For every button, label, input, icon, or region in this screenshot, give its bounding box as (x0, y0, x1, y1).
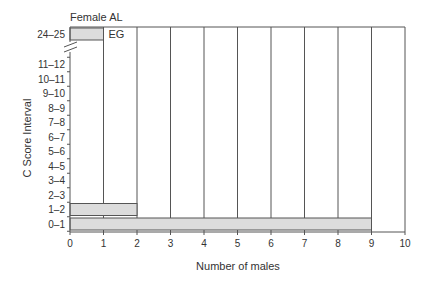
y-tick-label: 4–5 (48, 161, 65, 172)
chart-title: Female AL (70, 11, 123, 23)
y-tick-label: 24–25 (37, 29, 65, 40)
bar (70, 28, 104, 40)
y-tick-label: 6–7 (48, 132, 65, 143)
bar (70, 218, 372, 230)
x-tick-label: 2 (134, 238, 140, 249)
x-tick-label: 1 (101, 238, 107, 249)
y-tick-label: 10–11 (38, 74, 66, 85)
x-tick-label: 6 (268, 238, 274, 249)
x-tick-label: 10 (399, 238, 411, 249)
y-tick-label: 9–10 (43, 88, 66, 99)
x-tick-label: 4 (201, 238, 207, 249)
x-tick-label: 8 (335, 238, 341, 249)
y-tick-label: 8–9 (48, 103, 65, 114)
bar-annotation: EG (109, 28, 125, 40)
y-axis-label: C Score Interval (21, 99, 33, 178)
x-tick-label: 5 (235, 238, 241, 249)
x-tick-label: 7 (302, 238, 308, 249)
y-tick-label: 11–12 (38, 59, 66, 70)
annotations: EG (109, 28, 125, 40)
y-tick-label: 0–1 (48, 219, 65, 230)
bar (70, 204, 137, 216)
y-tick-label: 2–3 (48, 190, 65, 201)
y-tick-label: 7–8 (48, 117, 65, 128)
y-tick-label: 3–4 (48, 175, 65, 186)
x-tick-label: 0 (67, 238, 73, 249)
x-tick-label: 9 (369, 238, 375, 249)
axis-break-mark (64, 42, 77, 47)
x-ticks: 012345678910 (67, 232, 411, 249)
axis-break-mark (64, 47, 77, 52)
y-tick-label: 5–6 (48, 146, 65, 157)
x-axis-label: Number of males (196, 260, 280, 272)
grid-lines (70, 27, 405, 232)
axes (64, 27, 405, 232)
chart: Female AL 0–11–22–33–44–55–66–77–88–99–1… (0, 0, 432, 285)
bars (70, 28, 372, 230)
y-ticks: 0–11–22–33–44–55–66–77–88–99–1010–1111–1… (37, 29, 70, 232)
x-tick-label: 3 (168, 238, 174, 249)
y-tick-label: 1–2 (48, 204, 65, 215)
